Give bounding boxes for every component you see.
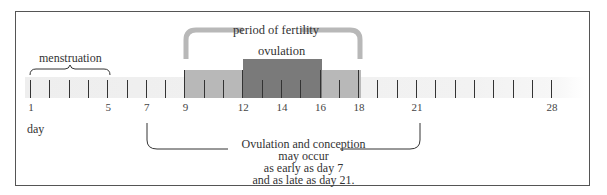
tick-day-15 [300, 80, 301, 98]
ovulation-segment [243, 59, 322, 98]
tick-day-19 [377, 80, 378, 98]
tick-day-21 [416, 80, 417, 98]
tick-day-10 [204, 80, 205, 98]
tick-day-1 [30, 80, 31, 98]
tick-label-day-16: 16 [315, 101, 326, 113]
tick-label-day-21: 21 [412, 101, 423, 113]
tick-label-day-28: 28 [547, 101, 558, 113]
tick-day-5 [107, 80, 108, 98]
tick-day-22 [435, 80, 436, 98]
menstruation-bracket [28, 64, 112, 76]
tick-day-23 [455, 80, 456, 98]
tick-day-13 [262, 80, 263, 98]
axis-unit-label: day [27, 122, 44, 137]
tick-label-day-5: 5 [105, 101, 111, 113]
tick-label-day-14: 14 [276, 101, 287, 113]
tick-day-16 [320, 70, 321, 98]
fertility-label: period of fertility [233, 23, 319, 38]
tick-day-25 [493, 80, 494, 98]
tick-day-17 [339, 80, 340, 98]
tick-day-6 [127, 80, 128, 98]
tick-day-18 [358, 70, 359, 98]
tick-day-2 [49, 80, 50, 98]
tick-day-4 [88, 80, 89, 98]
tick-label-day-12: 12 [238, 101, 249, 113]
tick-day-27 [532, 80, 533, 98]
note-line-4: and as late as day 21. [0, 174, 607, 186]
ovulation-label: ovulation [258, 44, 305, 59]
tick-day-12 [242, 70, 243, 98]
tick-day-26 [513, 80, 514, 98]
tick-day-14 [281, 80, 282, 98]
tick-day-7 [146, 80, 147, 98]
tick-day-28 [551, 80, 552, 98]
tick-day-3 [69, 80, 70, 98]
tick-label-day-7: 7 [144, 101, 150, 113]
tick-label-day-9: 9 [183, 101, 189, 113]
tick-day-20 [397, 80, 398, 98]
tick-label-day-1: 1 [28, 101, 34, 113]
tick-day-9 [184, 70, 185, 98]
tick-day-8 [165, 80, 166, 98]
tick-day-11 [223, 80, 224, 98]
tick-day-24 [474, 80, 475, 98]
tick-label-day-18: 18 [354, 101, 365, 113]
